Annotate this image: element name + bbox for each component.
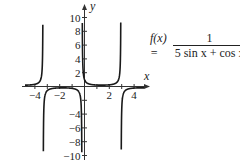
x-axis-label: x xyxy=(143,69,150,83)
function-formula: f(x) = 1 5 sin x + cos x xyxy=(150,31,240,61)
formula-denominator: 5 sin x + cos x xyxy=(173,46,240,60)
curve-branch xyxy=(25,25,43,85)
y-tick-label: 4 xyxy=(75,53,81,65)
y-tick-label: 2 xyxy=(75,67,81,79)
y-tick-label: −8 xyxy=(69,136,81,148)
x-tick-label: −2 xyxy=(54,89,66,101)
y-tick-label: −6 xyxy=(69,122,81,134)
x-tick-label: −4 xyxy=(29,89,41,101)
formula-fraction: 1 5 sin x + cos x xyxy=(173,32,240,60)
y-tick-label: −4 xyxy=(69,108,81,120)
x-tick-label: 4 xyxy=(131,89,137,101)
y-tick-label: 10 xyxy=(70,12,82,24)
function-graph: −4−224 108642−4−6−8−10 x y xyxy=(0,0,240,168)
y-tick-label: 8 xyxy=(75,25,81,37)
y-axis-arrow-icon xyxy=(82,4,87,10)
formula-lhs: f(x) = xyxy=(150,31,167,61)
curve-branch xyxy=(82,22,120,85)
x-tick-label: 2 xyxy=(107,89,113,101)
formula-numerator: 1 xyxy=(205,32,215,45)
y-tick-label: −10 xyxy=(63,150,81,162)
x-axis-arrow-icon xyxy=(144,84,150,89)
y-axis-label: y xyxy=(89,0,96,13)
y-tick-label: 6 xyxy=(75,39,81,51)
